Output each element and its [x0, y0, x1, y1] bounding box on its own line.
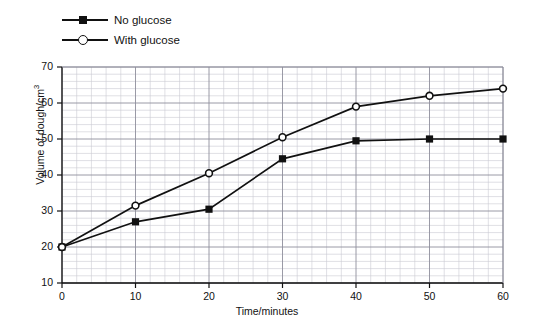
data-point	[132, 218, 139, 225]
data-point	[426, 135, 433, 142]
y-tick-label: 70	[22, 60, 53, 72]
filled-square-marker-icon	[62, 13, 108, 27]
y-tick-label: 40	[22, 168, 53, 180]
data-point	[499, 135, 506, 142]
legend-label-no-glucose: No glucose	[114, 13, 172, 27]
data-point	[279, 134, 286, 141]
data-point	[352, 137, 359, 144]
y-tick-label: 20	[22, 240, 53, 252]
x-axis-title: Time/minutes	[0, 305, 534, 317]
x-tick-label: 0	[42, 290, 82, 302]
data-point	[426, 92, 433, 99]
data-point	[279, 155, 286, 162]
data-point	[206, 170, 213, 177]
grid-major	[62, 67, 503, 283]
data-point	[205, 206, 212, 213]
y-tick-label: 50	[22, 132, 53, 144]
x-tick-label: 50	[410, 290, 450, 302]
data-point	[132, 202, 139, 209]
y-tick-label: 10	[22, 276, 53, 288]
x-tick-label: 20	[189, 290, 229, 302]
x-tick-label: 30	[263, 290, 303, 302]
data-point	[500, 85, 507, 92]
y-tick-label: 60	[22, 96, 53, 108]
data-point	[59, 244, 66, 251]
legend-item-with-glucose: With glucose	[62, 32, 180, 48]
x-tick-label: 60	[483, 290, 523, 302]
chart-container: No glucose With glucose Volume of dough/…	[0, 0, 534, 328]
data-point	[353, 103, 360, 110]
legend-item-no-glucose: No glucose	[62, 12, 180, 28]
y-tick-label: 30	[22, 204, 53, 216]
chart-legend: No glucose With glucose	[62, 12, 180, 48]
x-tick-label: 40	[336, 290, 376, 302]
x-tick-label: 10	[116, 290, 156, 302]
open-circle-marker-icon	[62, 33, 108, 47]
plot-area	[0, 0, 534, 328]
legend-label-with-glucose: With glucose	[114, 33, 180, 47]
